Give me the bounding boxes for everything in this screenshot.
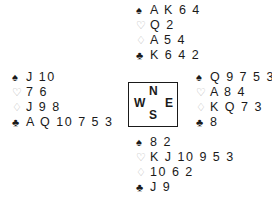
- north-spades: A K 6 4: [150, 3, 201, 17]
- east-hand: ♠Q 9 7 5 3 ♡A 8 4 ♢K Q 7 3 ♣8: [196, 70, 272, 130]
- north-spades-row: ♠A K 6 4: [136, 3, 201, 18]
- west-clubs-row: ♣A Q 10 7 5 3: [12, 115, 114, 130]
- south-diamonds: 10 6 2: [150, 165, 194, 179]
- south-hand: ♠8 2 ♡K J 10 9 5 3 ♢10 6 2 ♣J 9: [136, 135, 235, 195]
- east-spades: Q 9 7 5 3: [210, 70, 272, 84]
- compass-north: N: [149, 84, 158, 98]
- spade-icon: ♠: [136, 135, 150, 150]
- west-diamonds: J 9 8: [26, 100, 61, 114]
- club-icon: ♣: [136, 48, 150, 63]
- compass-south: S: [149, 108, 157, 122]
- south-clubs-row: ♣J 9: [136, 180, 235, 195]
- heart-icon: ♡: [136, 18, 150, 33]
- north-hearts: Q 2: [150, 18, 175, 32]
- spade-icon: ♠: [196, 70, 210, 85]
- diamond-icon: ♢: [12, 100, 26, 115]
- north-clubs: K 6 4 2: [150, 48, 200, 62]
- club-icon: ♣: [12, 115, 26, 130]
- compass-box: N W E S: [128, 82, 178, 127]
- west-hearts-row: ♡7 6: [12, 85, 114, 100]
- north-hearts-row: ♡Q 2: [136, 18, 201, 33]
- heart-icon: ♡: [196, 85, 210, 100]
- west-hearts: 7 6: [26, 85, 48, 99]
- south-hearts-row: ♡K J 10 9 5 3: [136, 150, 235, 165]
- north-diamonds-row: ♢A 5 4: [136, 33, 201, 48]
- south-spades: 8 2: [150, 135, 172, 149]
- spade-icon: ♠: [12, 70, 26, 85]
- east-hearts: A 8 4: [210, 85, 246, 99]
- east-clubs-row: ♣8: [196, 115, 272, 130]
- diamond-icon: ♢: [136, 33, 150, 48]
- east-spades-row: ♠Q 9 7 5 3: [196, 70, 272, 85]
- heart-icon: ♡: [12, 85, 26, 100]
- east-hearts-row: ♡A 8 4: [196, 85, 272, 100]
- west-clubs: A Q 10 7 5 3: [26, 115, 114, 129]
- east-diamonds-row: ♢K Q 7 3: [196, 100, 272, 115]
- north-diamonds: A 5 4: [150, 33, 186, 47]
- north-clubs-row: ♣K 6 4 2: [136, 48, 201, 63]
- diamond-icon: ♢: [136, 165, 150, 180]
- east-clubs: 8: [210, 115, 218, 129]
- west-diamonds-row: ♢J 9 8: [12, 100, 114, 115]
- south-diamonds-row: ♢10 6 2: [136, 165, 235, 180]
- spade-icon: ♠: [136, 3, 150, 18]
- west-spades: J 10: [26, 70, 56, 84]
- west-hand: ♠J 10 ♡7 6 ♢J 9 8 ♣A Q 10 7 5 3: [12, 70, 114, 130]
- south-hearts: K J 10 9 5 3: [150, 150, 235, 164]
- club-icon: ♣: [196, 115, 210, 130]
- club-icon: ♣: [136, 180, 150, 195]
- north-hand: ♠A K 6 4 ♡Q 2 ♢A 5 4 ♣K 6 4 2: [136, 3, 201, 63]
- compass-east: E: [165, 96, 173, 110]
- compass-west: W: [134, 96, 145, 110]
- heart-icon: ♡: [136, 150, 150, 165]
- south-clubs: J 9: [150, 180, 171, 194]
- south-spades-row: ♠8 2: [136, 135, 235, 150]
- diamond-icon: ♢: [196, 100, 210, 115]
- west-spades-row: ♠J 10: [12, 70, 114, 85]
- east-diamonds: K Q 7 3: [210, 100, 263, 114]
